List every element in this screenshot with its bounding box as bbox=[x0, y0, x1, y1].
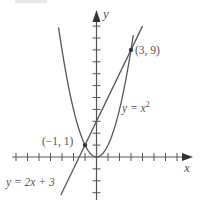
y-axis-label: y bbox=[101, 6, 109, 21]
y-axis-arrow-icon bbox=[93, 10, 101, 22]
graph-figure: y x (3, 9) (−1, 1) y = x2 y = 2x + 3 bbox=[0, 0, 203, 207]
point-label-neg1-1: (−1, 1) bbox=[42, 135, 74, 148]
axes bbox=[12, 10, 193, 200]
x-axis-label: x bbox=[183, 160, 190, 175]
intersection-point bbox=[129, 48, 133, 52]
point-label-3-9: (3, 9) bbox=[135, 44, 160, 57]
intersection-point bbox=[83, 143, 87, 147]
parabola-label: y = x2 bbox=[121, 100, 150, 115]
line-label: y = 2x + 3 bbox=[5, 176, 55, 189]
